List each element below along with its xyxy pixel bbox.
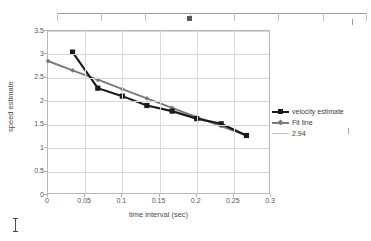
y-axis-tick: [44, 53, 47, 54]
data-point-marker: [144, 96, 149, 101]
legend-item[interactable]: velocity estimate: [272, 106, 368, 117]
plot-area: [47, 30, 270, 194]
gridline-vertical: [197, 31, 198, 193]
x-axis-title: time interval (sec): [47, 210, 270, 219]
x-axis-tick: [47, 194, 48, 197]
data-point-marker: [46, 59, 51, 64]
y-tick-label: 3.5: [34, 27, 44, 34]
y-axis-tick: [44, 30, 47, 31]
legend-swatch-icon: [272, 107, 289, 116]
gridline-vertical: [122, 31, 123, 193]
legend-line-icon: [272, 133, 289, 134]
gridline-horizontal: [48, 31, 269, 32]
data-point-marker: [170, 109, 175, 114]
ruler-tick: [278, 13, 279, 21]
gridline-vertical: [85, 31, 86, 193]
legend-swatch-icon: [272, 118, 289, 127]
x-axis-tick: [121, 194, 122, 197]
y-axis-tick: [44, 124, 47, 125]
y-axis-tick: [44, 100, 47, 101]
ruler-tick: [145, 13, 146, 21]
y-tick-label: 2.5: [34, 73, 44, 80]
chart-legend[interactable]: velocity estimateFit line2.94: [272, 106, 368, 139]
ruler-tick: [57, 13, 58, 21]
speed-estimate-chart: 00.511.522.533.5 00.050.10.150.20.250.3 …: [0, 24, 371, 224]
legend-swatch-icon: [272, 129, 289, 138]
ruler-baseline: [57, 13, 367, 14]
data-point-marker: [95, 86, 100, 91]
ruler-tick: [323, 13, 324, 21]
legend-label: velocity estimate: [292, 108, 344, 116]
ruler-tick: [366, 13, 367, 21]
document-ruler[interactable]: [57, 13, 367, 23]
x-axis-tick: [233, 194, 234, 197]
gridline-vertical: [234, 31, 235, 193]
x-tick-label: 0.2: [191, 197, 201, 205]
x-axis-tick: [84, 194, 85, 197]
gridline-horizontal: [48, 101, 269, 102]
gridline-horizontal: [48, 54, 269, 55]
tab-stop-marker[interactable]: [187, 16, 192, 21]
ruler-tick: [101, 13, 102, 21]
x-tick-label: 0.25: [226, 197, 240, 205]
y-axis-tick: [44, 147, 47, 148]
y-axis-tick-labels: 00.511.522.533.5: [22, 30, 44, 194]
legend-label: Fit line: [292, 119, 313, 127]
legend-label: 2.94: [292, 130, 306, 138]
y-axis-title: speed estimate: [6, 72, 15, 142]
data-point-marker: [144, 103, 149, 108]
x-axis-tick: [270, 194, 271, 197]
legend-item[interactable]: 2.94: [272, 128, 368, 139]
legend-item[interactable]: Fit line: [272, 117, 368, 128]
x-tick-label: 0.05: [77, 197, 91, 205]
x-axis-tick: [159, 194, 160, 197]
gridline-horizontal: [48, 148, 269, 149]
legend-marker-icon: [278, 109, 283, 114]
gridline-horizontal: [48, 78, 269, 79]
legend-marker-icon: [277, 119, 283, 125]
x-tick-label: 0.15: [152, 197, 166, 205]
y-axis-tick: [44, 77, 47, 78]
y-axis-tick: [44, 171, 47, 172]
gridline-horizontal: [48, 125, 269, 126]
x-tick-label: 0.1: [116, 197, 126, 205]
y-tick-label: 1.5: [34, 120, 44, 127]
x-axis-tick-labels: 00.050.10.150.20.250.3: [47, 197, 270, 209]
gridline-horizontal: [48, 172, 269, 173]
ruler-tick: [234, 13, 235, 21]
x-axis-tick: [196, 194, 197, 197]
data-point-marker: [70, 68, 75, 73]
y-tick-label: 0.5: [34, 167, 44, 174]
gridline-vertical: [160, 31, 161, 193]
data-point-marker: [244, 133, 249, 138]
x-tick-label: 0.3: [265, 197, 275, 205]
x-tick-label: 0: [45, 197, 49, 205]
